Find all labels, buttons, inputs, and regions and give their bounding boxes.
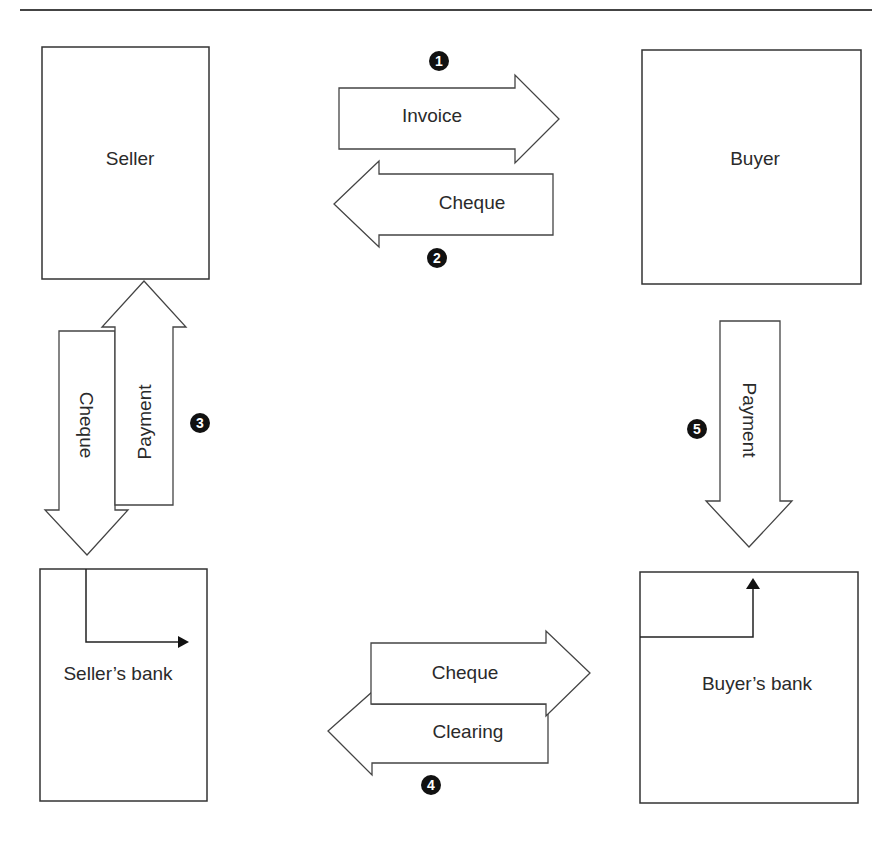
payment-from-buyer-arrow: Payment — [706, 321, 792, 547]
seller-box: Seller — [42, 47, 209, 279]
svg-text:1: 1 — [435, 53, 443, 69]
step-marker-3-icon: 3 — [190, 413, 210, 433]
buyer-box: Buyer — [642, 50, 861, 284]
cheque-down-label: Cheque — [76, 392, 97, 459]
payment-up-label: Payment — [134, 384, 155, 460]
seller-bank-label: Seller’s bank — [63, 663, 173, 684]
cheque-to-seller-arrow: Cheque — [334, 161, 553, 247]
step-marker-1-icon: 1 — [429, 51, 449, 71]
svg-text:2: 2 — [433, 250, 441, 266]
seller-bank-box: Seller’s bank — [40, 569, 207, 801]
payment-down-label: Payment — [739, 383, 760, 459]
svg-text:4: 4 — [427, 777, 435, 793]
buyer-bank-box: Buyer’s bank — [640, 572, 858, 803]
invoice-arrow-label: Invoice — [402, 105, 462, 126]
step-marker-2-icon: 2 — [427, 248, 447, 268]
invoice-arrow: Invoice — [339, 75, 559, 163]
payment-flow-diagram: Seller Buyer Seller’s bank Buyer’s bank … — [0, 0, 893, 842]
seller-label: Seller — [106, 148, 155, 169]
step-marker-5-icon: 5 — [687, 419, 707, 439]
buyer-bank-label: Buyer’s bank — [702, 673, 813, 694]
step-marker-4-icon: 4 — [421, 775, 441, 795]
cheque-to-buyer-bank-arrow: Cheque — [371, 631, 590, 716]
buyer-label: Buyer — [730, 148, 780, 169]
cheque-right-label: Cheque — [432, 662, 499, 683]
svg-text:5: 5 — [693, 421, 701, 437]
svg-text:3: 3 — [196, 415, 204, 431]
payment-to-seller-arrow: Payment — [102, 281, 186, 505]
cheque-to-seller-label: Cheque — [439, 192, 506, 213]
clearing-label: Clearing — [433, 721, 504, 742]
